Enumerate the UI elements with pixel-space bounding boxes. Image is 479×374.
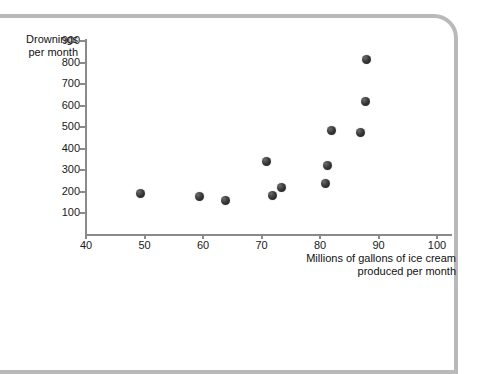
data-point [361,97,370,106]
data-point [268,191,277,200]
y-tick-label: 300 [42,164,80,175]
y-tick-mark [80,83,85,85]
x-tick-label: 60 [183,239,223,251]
y-tick-label: 600 [42,100,80,111]
x-tick-label: 70 [242,239,282,251]
data-point [136,189,145,198]
x-tick-label: 50 [125,239,165,251]
y-tick-label: 400 [42,143,80,154]
y-tick-mark [80,62,85,64]
y-tick-label: 200 [42,186,80,197]
y-axis-line [85,39,87,236]
x-axis-title-line1: Millions of gallons of ice cream [232,252,456,265]
data-point [321,179,330,188]
x-axis-title: Millions of gallons of ice cream produce… [232,252,456,278]
y-tick-mark [80,191,85,193]
y-tick-mark [80,105,85,107]
data-point [221,196,230,205]
x-axis-title-line2: produced per month [232,265,456,278]
data-point [327,126,336,135]
data-point [356,128,365,137]
x-tick-label: 90 [359,239,399,251]
y-tick-mark [80,126,85,128]
y-tick-label: 500 [42,121,80,132]
data-point [323,161,332,170]
data-point [262,157,271,166]
y-tick-label: 900 [42,35,80,46]
data-point [195,192,204,201]
y-tick-mark [80,148,85,150]
data-point [362,55,371,64]
x-tick-label: 80 [300,239,340,251]
y-tick-mark [80,212,85,214]
x-axis-line [85,234,452,236]
x-tick-label: 100 [417,239,457,251]
x-tick-label: 40 [66,239,106,251]
y-tick-label: 700 [42,78,80,89]
y-tick-label: 800 [42,57,80,68]
y-tick-mark [80,40,85,42]
y-tick-label: 100 [42,207,80,218]
data-point [277,183,286,192]
y-tick-mark [80,169,85,171]
